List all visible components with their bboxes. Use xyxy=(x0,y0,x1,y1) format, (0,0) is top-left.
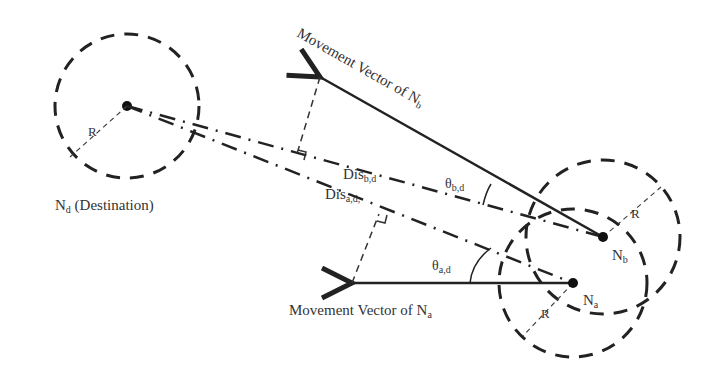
projection-b xyxy=(296,77,320,157)
movement-vector-a-label: Movement Vector of Na xyxy=(289,302,432,320)
distance-line-b xyxy=(127,106,603,237)
right-angle-a xyxy=(377,215,387,223)
angle-label-a: θa,d xyxy=(432,258,451,275)
destination-radius-label: R xyxy=(88,124,97,139)
projection-a xyxy=(352,214,379,283)
node-a-label: Na xyxy=(583,292,599,310)
angle-arc-b xyxy=(483,184,491,205)
movement-vector-b xyxy=(320,77,603,237)
node-b-point xyxy=(598,232,608,242)
destination-radius-line xyxy=(70,106,127,157)
diagram-canvas: R R R θb,d θa,d Disb,d Disa,d, Nd (Desti… xyxy=(0,0,715,382)
distance-label-b: Disb,d xyxy=(343,166,376,184)
node-b-label: Nb xyxy=(612,247,628,265)
distance-label-a: Disa,d, xyxy=(325,186,360,204)
node-a-point xyxy=(568,278,578,288)
destination-label: Nd (Destination) xyxy=(55,197,154,215)
movement-vector-b-label: Movement Vector of Nb xyxy=(294,25,428,111)
node-b-radius-label: R xyxy=(631,206,640,221)
angle-arc-a xyxy=(470,248,491,283)
angle-label-b: θb,d xyxy=(445,176,464,193)
node-a-radius-label: R xyxy=(541,306,550,321)
